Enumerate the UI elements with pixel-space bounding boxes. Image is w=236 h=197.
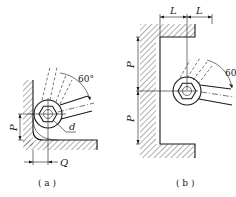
arrow-right-icon <box>29 161 33 164</box>
floor-hatch <box>23 140 98 150</box>
bottom-hatch <box>140 144 195 158</box>
rotated-wrench-dash-3 <box>56 75 66 102</box>
wall-outline <box>33 80 97 150</box>
panel-a: 60° d P Q ( a ) <box>8 67 98 188</box>
wrench-handle-top <box>200 85 231 89</box>
angle-label-a: 60° <box>78 74 94 84</box>
rotated-wrench-dash-2 <box>187 58 200 78</box>
rotated-wrench-dash-4 <box>60 80 72 104</box>
arrow-up-icon <box>137 37 140 41</box>
dim-p-label: P <box>8 124 19 132</box>
arrow-down-icon <box>19 136 22 140</box>
wall-hatch-vertical <box>23 80 33 146</box>
panel-b: L L P P 60° ( b ) <box>125 5 236 188</box>
arrow-left-icon <box>187 16 191 19</box>
angle-label-b: 60° <box>225 68 236 78</box>
arrow-right-icon <box>208 16 212 19</box>
arrow-left-icon <box>160 16 164 19</box>
wrench-handle-bottom <box>199 99 232 105</box>
wrench-handle-top <box>60 96 88 105</box>
caption-a: ( a ) <box>38 178 56 188</box>
caption-b: ( b ) <box>176 178 195 188</box>
rotated-wrench-dash-1 <box>180 60 190 78</box>
dim-l-left-label: L <box>169 5 177 16</box>
arrow-right-icon <box>183 16 187 19</box>
rotated-wrench-dash-4 <box>198 66 212 84</box>
dim-l-right-label: L <box>195 5 203 16</box>
angle-arrow-icon <box>229 84 233 88</box>
arrow-down-icon <box>137 140 140 144</box>
left-wall-hatch <box>140 37 156 144</box>
arrow-up-icon <box>137 91 140 95</box>
rotated-wrench-dash-3 <box>193 62 207 80</box>
arrow-down-icon <box>137 87 140 91</box>
wrench-clearance-diagram: 60° d P Q ( a ) <box>0 0 236 197</box>
arrow-left-icon <box>48 161 52 164</box>
dim-p-top-label: P <box>125 61 136 69</box>
wrench-axis <box>201 92 234 97</box>
dim-q-label: Q <box>60 157 68 168</box>
rotated-wrench-dash-2 <box>50 67 57 100</box>
angle-arrow-icon <box>87 96 91 100</box>
arrow-up-icon <box>19 114 22 118</box>
wrench-handle-bottom <box>61 111 92 119</box>
rotated-wrench-dash-1 <box>42 67 50 100</box>
dim-d-label: d <box>69 121 75 132</box>
dim-p-bottom-label: P <box>125 115 136 123</box>
